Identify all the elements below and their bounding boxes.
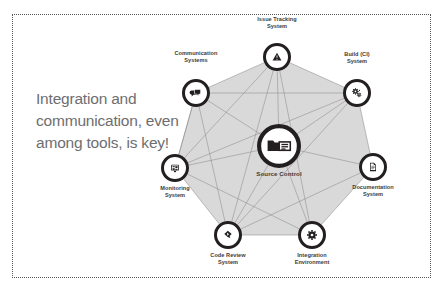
node-label-code-review: Code Review System [185,252,271,266]
diagram-node-code-review[interactable] [214,221,242,249]
node-label-documentation: Documentation System [330,184,416,198]
diagram-svg [0,0,447,290]
diagram-node-build-ci[interactable] [343,79,371,107]
tool-integration-diagram: Issue Tracking SystemBuild (CI) SystemDo… [0,0,447,290]
slide-canvas: Integration and communication, even amon… [0,0,447,290]
diagram-node-monitoring[interactable] [161,154,189,182]
node-label-monitoring: Monitoring System [132,185,218,199]
node-label-communication: Communication Systems [153,50,239,64]
node-label-issue-tracking: Issue Tracking System [234,16,320,30]
diagram-node-integration-env[interactable] [298,221,326,249]
gear-icon [307,230,317,240]
node-label-integration-env: Integration Environment [269,252,355,266]
diagram-node-documentation[interactable] [359,153,387,181]
node-label-source-control: Source Control [236,170,322,178]
diagram-node-issue-tracking[interactable] [263,43,291,71]
diagram-node-communication[interactable] [182,79,210,107]
node-label-build-ci: Build (CI) System [314,51,400,65]
document-page-icon [370,163,376,172]
diagram-node-source-control[interactable] [257,124,301,168]
